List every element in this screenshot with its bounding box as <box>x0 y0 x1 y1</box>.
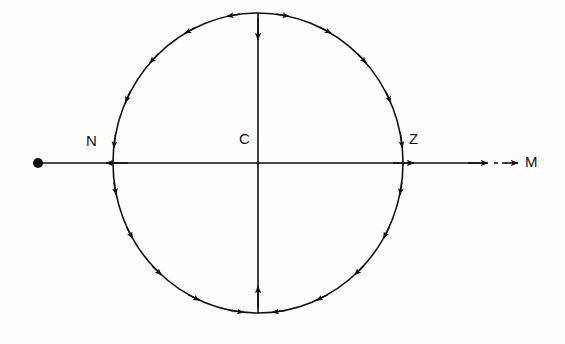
label-z: Z <box>409 131 418 146</box>
label-c: C <box>239 131 250 146</box>
circumference-arrow <box>320 27 331 33</box>
axis-origin-dot <box>33 158 43 168</box>
circumference-arrow <box>355 266 364 275</box>
circumference-arrow <box>383 227 389 239</box>
vector-field-figure <box>0 0 565 344</box>
label-m: M <box>525 154 538 169</box>
circumference-arrow <box>401 135 403 148</box>
circumference-arrow <box>125 91 131 103</box>
circumference-arrow <box>188 295 200 301</box>
circumference-arrow <box>316 295 328 301</box>
diagram-canvas: N C Z M <box>0 0 565 344</box>
label-n: N <box>86 133 97 148</box>
circumference-arrow <box>231 311 244 313</box>
circumference-arrow <box>152 266 161 275</box>
circumference-arrow <box>185 27 196 33</box>
circumference-arrow <box>114 135 116 148</box>
circumference-arrow <box>357 54 366 64</box>
circumference-arrow <box>385 91 391 103</box>
circumference-arrow <box>150 54 159 64</box>
circumference-arrow <box>127 227 133 239</box>
circumference-arrow <box>272 311 285 313</box>
